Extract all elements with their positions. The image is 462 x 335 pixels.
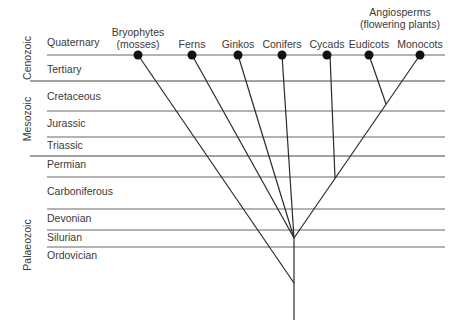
branch-conifers — [282, 55, 294, 238]
branch-angiosperm-stem — [294, 55, 420, 238]
period-label-triassic: Triassic — [47, 139, 83, 151]
period-label-ordovician: Ordovician — [47, 249, 97, 261]
node-eudicots — [365, 51, 374, 60]
group-label-angiosperms: Angiosperms (flowering plants) — [360, 6, 440, 30]
node-ginkos — [234, 51, 243, 60]
period-label-quaternary: Quaternary — [47, 36, 100, 48]
node-bryophytes — [134, 51, 143, 60]
period-label-tertiary: Tertiary — [47, 63, 81, 75]
period-label-jurassic: Jurassic — [47, 117, 86, 129]
period-label-cretaceous: Cretaceous — [47, 90, 101, 102]
branch-eudicots — [369, 55, 386, 104]
node-cycads — [323, 51, 332, 60]
node-conifers — [278, 51, 287, 60]
taxon-label-bryophytes: Bryophytes (mosses) — [112, 26, 165, 50]
branch-ferns — [192, 55, 294, 238]
node-ferns — [188, 51, 197, 60]
branch-cycads — [330, 55, 335, 178]
period-label-carboniferous: Carboniferous — [47, 185, 113, 197]
era-label-cenozoic: Cenozoic — [21, 36, 33, 80]
branch-ginkos — [238, 55, 294, 238]
taxon-label-conifers: Conifers — [262, 38, 301, 50]
branch-bryophytes — [138, 55, 294, 283]
taxon-label-eudicots: Eudicots — [349, 38, 389, 50]
period-dividers — [30, 55, 445, 247]
period-label-permian: Permian — [47, 158, 86, 170]
node-monocots — [416, 51, 425, 60]
taxon-label-ginkos: Ginkos — [222, 38, 255, 50]
period-label-silurian: Silurian — [47, 231, 82, 243]
era-label-mesozoic: Mesozoic — [21, 97, 33, 141]
taxon-label-cycads: Cycads — [309, 38, 344, 50]
period-label-devonian: Devonian — [47, 212, 91, 224]
taxon-label-ferns: Ferns — [179, 38, 206, 50]
taxon-label-monocots: Monocots — [397, 38, 443, 50]
era-label-palaeozoic: Palaeozoic — [21, 219, 33, 270]
tree-branches — [138, 55, 420, 320]
